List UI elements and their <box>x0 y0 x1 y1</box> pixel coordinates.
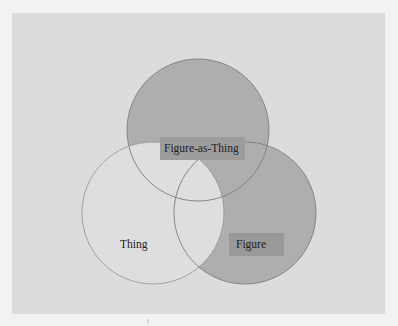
label-figure: Figure <box>236 238 266 251</box>
label-figure-as-thing: Figure-as-Thing <box>164 142 239 155</box>
circle-thing <box>82 142 224 284</box>
label-thing: Thing <box>120 238 148 251</box>
venn-diagram: Figure-as-Thing Thing Figure <box>0 0 398 326</box>
